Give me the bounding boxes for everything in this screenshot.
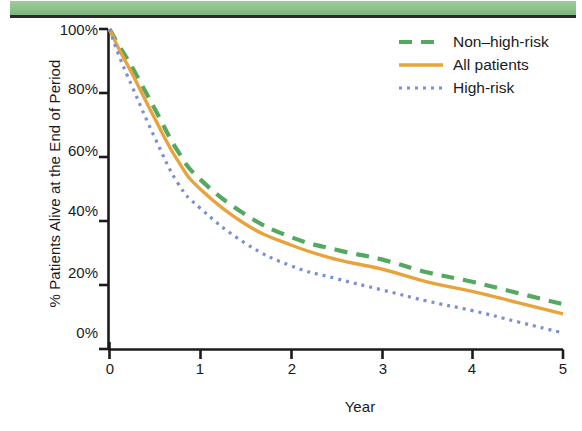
survival-curve-chart: % Patients Alive at the End of Period Ye…: [0, 0, 582, 431]
legend-item-all-patients: All patients: [398, 53, 582, 76]
legend-label-high-risk: High-risk: [453, 79, 514, 97]
legend-label-all-patients: All patients: [453, 56, 529, 74]
chart-legend: Non–high-risk All patients High-risk: [398, 30, 582, 99]
legend-item-high-risk: High-risk: [398, 76, 582, 99]
legend-swatch-solid-orange: [398, 59, 444, 71]
legend-label-non-high-risk: Non–high-risk: [453, 33, 549, 51]
legend-swatch-dotted-blue: [398, 82, 444, 94]
legend-swatch-dashed-green: [398, 36, 444, 48]
legend-item-non-high-risk: Non–high-risk: [398, 30, 582, 53]
